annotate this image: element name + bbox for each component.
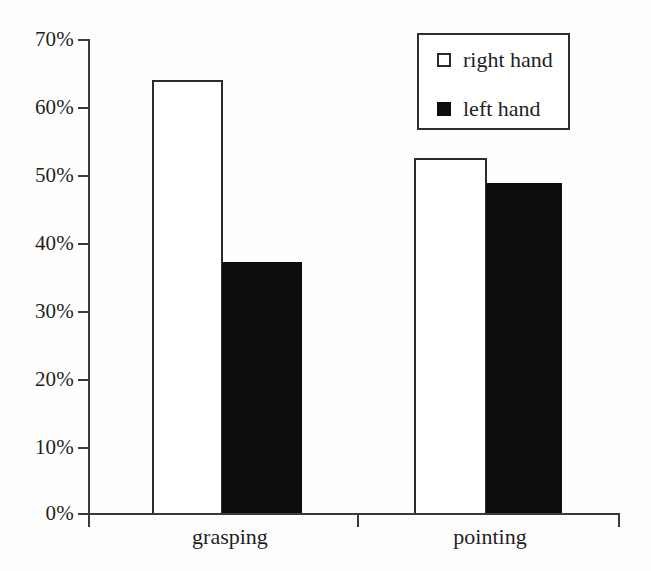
x-tick-mark-start <box>88 515 90 527</box>
y-tick-mark-40 <box>78 243 89 245</box>
y-tick-70: 70% <box>0 29 74 50</box>
y-tick-label-10: 10% <box>2 437 74 458</box>
bar-pointing-right-hand <box>414 158 487 516</box>
y-tick-label-60: 60% <box>2 97 74 118</box>
y-tick-40: 40% <box>0 233 74 254</box>
y-tick-50: 50% <box>0 165 74 186</box>
x-category-label-pointing: pointing <box>415 524 565 550</box>
black-square-swatch-icon <box>437 102 451 116</box>
bar-grasping-left-hand <box>222 262 302 515</box>
y-tick-label-40: 40% <box>2 233 74 254</box>
y-tick-mark-30 <box>78 311 89 313</box>
y-tick-10: 10% <box>0 437 74 458</box>
y-tick-30: 30% <box>0 301 74 322</box>
y-tick-20: 20% <box>0 369 74 390</box>
x-category-label-grasping: grasping <box>155 524 305 550</box>
x-axis-line <box>88 513 620 515</box>
legend-item-left-hand: left hand <box>437 97 541 121</box>
bar-pointing-left-hand <box>486 183 562 515</box>
y-tick-0: 0% <box>0 503 74 524</box>
y-tick-60: 60% <box>0 97 74 118</box>
y-axis-line <box>88 39 90 515</box>
y-tick-label-50: 50% <box>2 165 74 186</box>
x-tick-mark-end <box>618 515 620 527</box>
y-tick-label-0: 0% <box>2 503 74 524</box>
y-tick-label-30: 30% <box>2 301 74 322</box>
bar-grasping-right-hand <box>152 80 223 515</box>
y-tick-mark-60 <box>78 107 89 109</box>
y-tick-mark-50 <box>78 175 89 177</box>
y-tick-label-20: 20% <box>2 369 74 390</box>
y-tick-label-70: 70% <box>2 29 74 50</box>
legend-label-left-hand: left hand <box>463 97 541 121</box>
legend-label-right-hand: right hand <box>463 48 553 72</box>
y-tick-mark-10 <box>78 447 89 449</box>
chart-legend: right hand left hand <box>417 33 570 130</box>
x-tick-mark-divider <box>357 515 359 527</box>
y-tick-mark-70 <box>78 39 89 41</box>
legend-item-right-hand: right hand <box>437 48 553 72</box>
bar-chart: 70% 60% 50% 40% 30% 20% 10% 0% grasping … <box>0 0 651 571</box>
white-square-swatch-icon <box>437 53 451 67</box>
y-tick-mark-20 <box>78 379 89 381</box>
